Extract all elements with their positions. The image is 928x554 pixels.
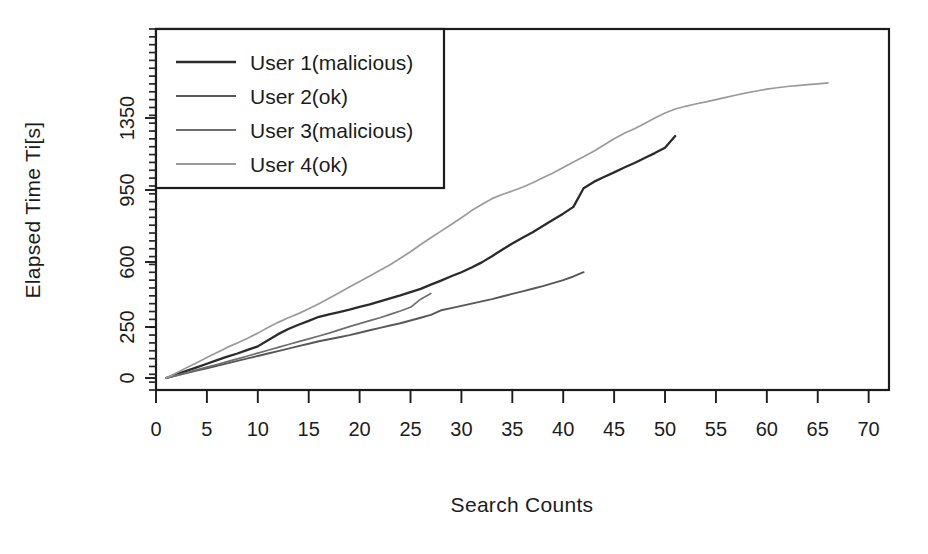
series-line-3	[166, 294, 431, 378]
y-axis-tick-labels: 02506009501350	[116, 96, 138, 384]
x-axis-tick-label: 30	[450, 418, 472, 440]
y-axis-ticks	[145, 29, 156, 390]
x-axis-tick-label: 50	[654, 418, 676, 440]
legend-label-4: User 4(ok)	[250, 153, 348, 176]
x-axis-tick-label: 60	[756, 418, 778, 440]
x-axis-tick-label: 10	[247, 418, 269, 440]
x-axis-tick-label: 45	[603, 418, 625, 440]
x-axis-tick-label: 15	[298, 418, 320, 440]
legend-label-3: User 3(malicious)	[250, 119, 413, 142]
legend: User 1(malicious)User 2(ok)User 3(malici…	[156, 29, 444, 188]
x-axis-ticks	[156, 390, 869, 403]
legend-label-1: User 1(malicious)	[250, 51, 413, 74]
y-axis-tick-label: 950	[116, 173, 138, 206]
chart-container: 02506009501350 0510152025303540455055606…	[0, 0, 928, 554]
x-axis-tick-label: 20	[348, 418, 370, 440]
y-axis-tick-label: 0	[116, 372, 138, 383]
legend-label-2: User 2(ok)	[250, 85, 348, 108]
x-axis-title: Search Counts	[451, 493, 594, 516]
y-axis-tick-label: 250	[116, 310, 138, 343]
x-axis-tick-label: 0	[150, 418, 161, 440]
x-axis-tick-label: 55	[705, 418, 727, 440]
x-axis-tick-label: 35	[501, 418, 523, 440]
x-axis-tick-label: 5	[201, 418, 212, 440]
x-axis-tick-label: 65	[807, 418, 829, 440]
y-axis-tick-label: 600	[116, 245, 138, 278]
y-axis-tick-label: 1350	[116, 96, 138, 141]
x-axis-tick-labels: 0510152025303540455055606570	[150, 418, 879, 440]
line-chart-svg: 02506009501350 0510152025303540455055606…	[0, 0, 928, 554]
x-axis-tick-label: 70	[858, 418, 880, 440]
y-axis-title: Elapsed Time Ti[s]	[21, 122, 44, 299]
x-axis-tick-label: 25	[399, 418, 421, 440]
x-axis-tick-label: 40	[552, 418, 574, 440]
